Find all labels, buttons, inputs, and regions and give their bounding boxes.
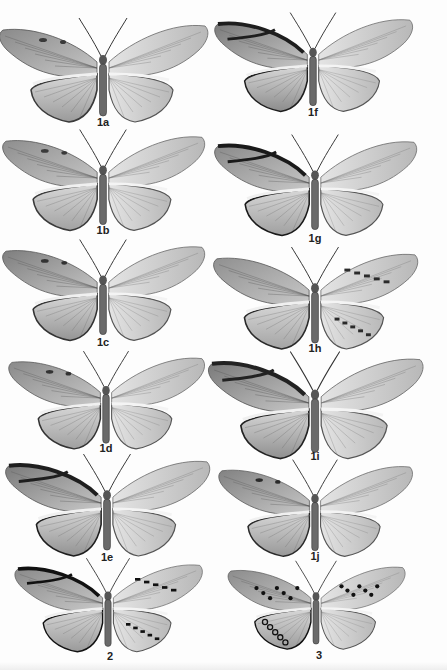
specimen-label-3: 3	[316, 649, 322, 661]
page-edge-shadow	[0, 662, 447, 670]
specimen-label-1d: 1d	[100, 442, 113, 454]
specimen-label-1c: 1c	[97, 336, 109, 348]
specimen-label-1e: 1e	[101, 551, 113, 563]
butterfly-specimen-1c	[0, 235, 213, 345]
specimen-label-2: 2	[107, 650, 113, 662]
butterfly-icon	[205, 130, 425, 240]
butterfly-specimen-1e	[0, 450, 217, 560]
butterfly-specimen-1d	[0, 345, 216, 455]
butterfly-icon	[0, 450, 217, 560]
specimen-label-1i: 1i	[310, 450, 319, 462]
butterfly-specimen-3	[206, 550, 426, 660]
butterfly-icon	[203, 7, 423, 117]
butterfly-specimen-1a	[0, 15, 213, 125]
specimen-label-1g: 1g	[309, 232, 322, 244]
butterfly-specimen-1j	[205, 453, 425, 563]
butterfly-specimen-1h	[205, 243, 425, 353]
butterfly-icon	[205, 243, 425, 353]
specimen-label-1a: 1a	[97, 116, 109, 128]
butterfly-icon	[0, 125, 213, 235]
butterfly-specimen-1i	[205, 350, 425, 460]
butterfly-icon	[0, 15, 213, 125]
butterfly-specimen-2	[0, 550, 218, 660]
butterfly-icon	[205, 453, 425, 563]
butterfly-icon	[0, 345, 216, 455]
specimen-label-1b: 1b	[97, 224, 110, 236]
specimen-plate: 1a1f1b1g1c1h1d1i1e1j23	[0, 0, 447, 670]
butterfly-icon	[0, 550, 218, 660]
butterfly-icon	[205, 350, 425, 460]
butterfly-icon	[0, 235, 213, 345]
specimen-label-1h: 1h	[309, 342, 322, 354]
butterfly-specimen-1f	[203, 7, 423, 117]
specimen-label-1j: 1j	[310, 550, 319, 562]
butterfly-icon	[206, 550, 426, 660]
butterfly-specimen-1g	[205, 130, 425, 240]
specimen-label-1f: 1f	[308, 106, 318, 118]
butterfly-specimen-1b	[0, 125, 213, 235]
